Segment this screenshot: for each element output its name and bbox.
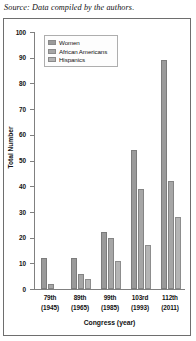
y-axis-tick-label: 90 [4,54,26,61]
legend-swatch-icon [48,40,56,45]
x-axis-category-year: (1993) [123,303,157,313]
legend-item-african-americans: African Americans [48,47,114,55]
bar-women [41,258,47,289]
bar-african-americans [48,284,54,289]
bar-group [161,32,181,289]
legend-item-women: Women [48,39,114,47]
y-axis-tick-label: 30 [4,209,26,216]
x-axis-category-congress: 79th [44,294,57,301]
bar-hispanics [145,245,151,289]
bar-group [101,32,121,289]
bar-african-americans [138,189,144,289]
legend-swatch-icon [48,57,56,62]
x-axis-category-congress: 89th [74,294,87,301]
x-axis-category-year: (1965) [63,303,97,313]
bar-group [71,32,91,289]
y-axis-tick-label: 0 [4,286,26,293]
bar-group [41,32,61,289]
plot-area: Total Number 0102030405060708090100 79th… [4,19,190,335]
y-axis-tick-label: 80 [4,80,26,87]
x-axis-category-year: (1945) [33,303,67,313]
x-axis-category-label: 89th(1965) [63,293,97,312]
legend-label: African Americans [59,48,107,55]
bar-women [71,258,77,289]
x-axis-category-label: 112th(2011) [153,293,187,312]
chart-legend: Women African Americans Hispanics [44,35,118,67]
legend-item-hispanics: Hispanics [48,56,114,64]
x-axis-category-year: (1985) [93,303,127,313]
y-axis-tick-label: 50 [4,157,26,164]
x-axis-category-congress: 112th [162,294,178,301]
x-axis-title: Congress (year) [34,319,185,326]
bar-african-americans [108,238,114,289]
x-axis-category-label: 79th(1945) [33,293,67,312]
y-axis-tick [30,289,35,290]
bar-african-americans [78,274,84,289]
figure-container: Total Number 0102030405060708090100 79th… [3,18,191,336]
x-axis-line [34,289,185,290]
y-axis-title: Total Number [7,118,14,178]
bar-group [131,32,151,289]
source-note: Source: Data compiled by the authors. [4,3,134,12]
y-axis-tick-label: 70 [4,106,26,113]
bar-hispanics [85,279,91,289]
bar-women [131,150,137,289]
bar-women [161,60,167,289]
bar-african-americans [168,181,174,289]
bar-hispanics [175,217,181,289]
x-axis-category-congress: 103rd [132,294,149,301]
bars-layer [35,32,185,289]
x-axis-category-label: 99th(1985) [93,293,127,312]
y-axis-tick-label: 60 [4,131,26,138]
legend-label: Hispanics [59,56,85,63]
x-axis-category-label: 103rd(1993) [123,293,157,312]
bar-women [101,232,107,289]
legend-swatch-icon [48,49,56,54]
y-axis-tick-label: 20 [4,234,26,241]
y-axis-tick-label: 10 [4,260,26,267]
x-axis-category-year: (2011) [153,303,187,313]
bar-hispanics [115,261,121,289]
y-axis-tick-label: 40 [4,183,26,190]
x-axis-category-congress: 99th [104,294,117,301]
legend-label: Women [59,39,80,46]
y-axis-tick-label: 100 [4,29,26,36]
